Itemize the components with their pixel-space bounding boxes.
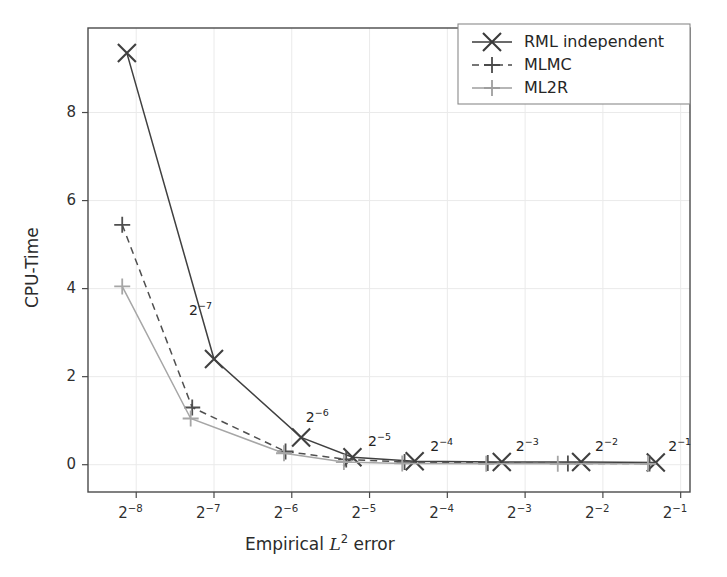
y-tick-label: 8: [52, 103, 76, 121]
series-marker: [183, 410, 199, 426]
chart-plot-area: [0, 0, 727, 577]
y-tick-label: 0: [52, 455, 76, 473]
data-point-annotation: 2−3: [516, 438, 539, 454]
data-point-annotation: 2−4: [430, 438, 453, 454]
legend-entry-label: RML independent: [524, 32, 664, 51]
series-marker: [478, 456, 494, 472]
legend-entry-label: ML2R: [524, 78, 568, 97]
x-tick-label: 2−4: [429, 504, 454, 522]
data-point-annotation: 2−6: [306, 409, 329, 425]
y-tick-label: 6: [52, 191, 76, 209]
data-point-annotation: 2−2: [595, 438, 618, 454]
x-tick-label: 2−5: [352, 504, 377, 522]
series-marker: [640, 456, 656, 472]
legend-entry-label: MLMC: [524, 55, 572, 74]
series-marker: [550, 456, 566, 472]
data-point-annotation: 2−1: [668, 438, 691, 454]
x-axis-title: Empirical L2 error: [245, 534, 395, 554]
series-marker: [118, 44, 136, 62]
x-tick-label: 2−3: [507, 504, 532, 522]
series-marker: [292, 428, 310, 446]
figure-canvas: 2−82−72−62−52−42−32−22−102468 2−72−62−52…: [0, 0, 727, 577]
x-axis-title-variable: L: [329, 534, 340, 554]
series-marker: [114, 278, 130, 294]
data-series-group: [114, 44, 665, 472]
x-tick-label: 2−1: [663, 504, 688, 522]
x-tick-label: 2−7: [196, 504, 221, 522]
y-tick-label: 4: [52, 279, 76, 297]
x-tick-label: 2−8: [118, 504, 143, 522]
y-tick-label: 2: [52, 367, 76, 385]
data-point-annotation: 2−7: [189, 302, 212, 318]
data-point-annotation: 2−5: [368, 433, 391, 449]
series-marker: [114, 217, 130, 233]
series-line: [122, 225, 649, 464]
x-tick-label: 2−6: [274, 504, 299, 522]
series-marker: [184, 399, 200, 415]
series-line: [127, 53, 656, 462]
y-axis-title: CPU-Time: [22, 227, 42, 308]
x-tick-label: 2−2: [585, 504, 610, 522]
